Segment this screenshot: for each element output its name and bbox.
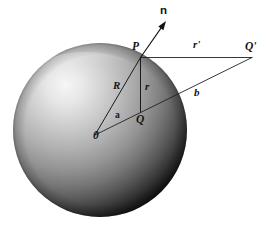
segment-label-R: R: [112, 79, 120, 91]
normal-arrow-head: [158, 21, 166, 30]
sphere-geometry-diagram: 0 P Q Q' R r r' b a n: [0, 0, 267, 233]
normal-arrow-shaft: [141, 26, 163, 58]
point-label-Q-prime: Q': [245, 40, 257, 52]
segment-label-r: r: [145, 80, 150, 92]
segment-label-b: b: [194, 86, 200, 98]
normal-vector-group: [141, 21, 167, 58]
sphere-top-sheen: [30, 52, 142, 104]
point-label-O: 0: [93, 129, 99, 141]
angle-label-alpha: a: [115, 110, 120, 120]
point-label-Q: Q: [136, 113, 144, 125]
point-label-P: P: [132, 40, 140, 52]
normal-vector-label-n: n: [160, 4, 167, 16]
figure-root: 0 P Q Q' R r r' b a n: [0, 0, 267, 233]
sphere-group: [13, 43, 187, 217]
segment-label-r-prime: r': [193, 38, 200, 50]
